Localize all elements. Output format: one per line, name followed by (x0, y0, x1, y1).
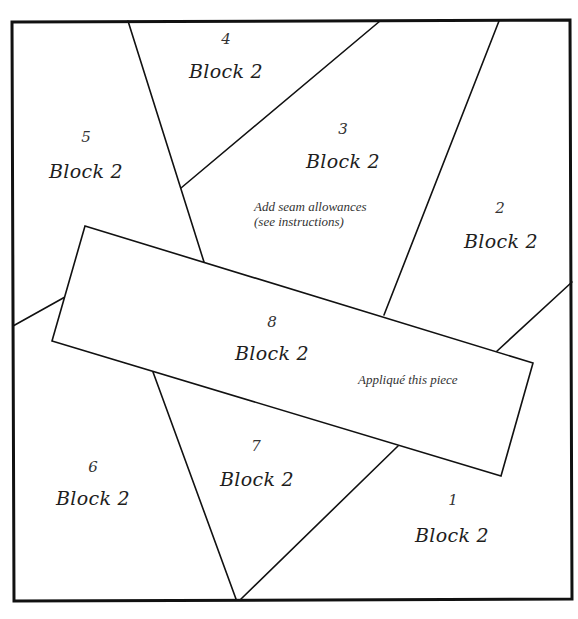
piece-6-label: Block 2 (56, 487, 130, 509)
seam-line-2-3 (384, 21, 499, 315)
piece-8-label: Block 2 (235, 342, 309, 364)
seam-allowance-note: Add seam allowances (see instructions) (254, 199, 367, 229)
piece-6-number: 6 (88, 458, 98, 476)
piece-5-label: Block 2 (49, 160, 123, 182)
seam-line-1-2 (496, 282, 572, 352)
applique-note: Appliqué this piece (358, 372, 458, 387)
quilt-pattern-diagram (0, 0, 578, 619)
seam-note-line1: Add seam allowances (254, 199, 367, 214)
seam-line-4-5 (128, 21, 204, 262)
piece-5-number: 5 (81, 128, 91, 146)
piece-7-label: Block 2 (220, 468, 294, 490)
piece-1-number: 1 (448, 491, 458, 509)
piece-3-label: Block 2 (306, 150, 380, 172)
piece-8-number: 8 (267, 313, 277, 331)
piece-7-number: 7 (251, 437, 261, 455)
piece-3-number: 3 (338, 120, 348, 138)
piece-1-label: Block 2 (415, 524, 489, 546)
piece-4-label: Block 2 (189, 60, 263, 82)
seam-note-line2: (see instructions) (254, 214, 367, 229)
piece-4-number: 4 (221, 30, 231, 48)
piece-2-label: Block 2 (464, 230, 538, 252)
piece-2-number: 2 (495, 199, 505, 217)
